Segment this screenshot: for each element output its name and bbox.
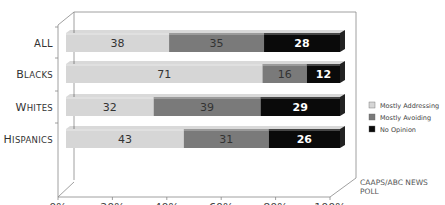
category-labels-group: ALLBLACKSWHITESHISPANICS [4, 27, 58, 146]
bar-top-face [66, 61, 345, 64]
bar-highlight [154, 97, 261, 99]
bars-group: 383528711612323929433126 [66, 30, 345, 148]
bar-value-label: 12 [316, 68, 331, 81]
source-note: CAAPS/ABC NEWS POLL [360, 178, 428, 196]
bar-highlight [66, 33, 169, 35]
bar-value-label: 26 [297, 133, 313, 146]
bar-end-cap [340, 94, 345, 116]
x-tick-label: 100% [314, 201, 345, 205]
legend-swatch [369, 126, 375, 132]
bar-end-cap [340, 30, 345, 52]
bar-value-label: 71 [157, 68, 171, 81]
bar-highlight [66, 64, 263, 66]
bar-top-face [66, 94, 345, 97]
legend: Mostly AddressingMostly AvoidingNo Opini… [369, 102, 439, 134]
category-label: WHITES [15, 101, 53, 114]
legend-label: No Opinion [380, 126, 416, 134]
bar-value-label: 28 [294, 37, 309, 50]
bar-row-blacks: 711612 [66, 61, 345, 83]
bar-row-hispanics: 433126 [66, 126, 345, 148]
bar-value-label: 29 [293, 101, 308, 114]
bar-highlight [184, 129, 269, 131]
bar-top-face [66, 30, 345, 33]
bar-highlight [169, 33, 264, 35]
bar-top-face [66, 126, 345, 129]
bar-value-label: 35 [210, 37, 224, 50]
legend-swatch [369, 102, 375, 108]
bar-end-cap [340, 126, 345, 148]
legend-label: Mostly Avoiding [380, 114, 431, 122]
bar-highlight [263, 64, 307, 66]
bar-value-label: 43 [118, 133, 132, 146]
x-tick-label: 20% [100, 201, 124, 205]
category-label: BLACKS [16, 68, 53, 81]
legend-label: Mostly Addressing [380, 102, 439, 110]
bar-value-label: 38 [111, 37, 125, 50]
x-tick-label: 60% [209, 201, 233, 205]
x-tick-label: 80% [263, 201, 287, 205]
stacked-bar-chart: 383528711612323929433126 0%20%40%60%80%1… [0, 0, 445, 205]
depth-line-right [330, 178, 356, 197]
bar-highlight [66, 129, 184, 131]
bar-value-label: 31 [219, 133, 233, 146]
bar-value-label: 39 [200, 101, 214, 114]
bar-end-cap [340, 61, 345, 83]
legend-swatch [369, 114, 375, 120]
bar-highlight [264, 33, 340, 35]
depth-line-top [58, 12, 74, 25]
depth-line-origin [58, 182, 74, 197]
source-line-2: POLL [360, 187, 428, 196]
bar-highlight [269, 129, 340, 131]
source-line-1: CAAPS/ABC NEWS [360, 178, 428, 187]
bar-value-label: 16 [278, 68, 292, 81]
category-label: HISPANICS [4, 133, 53, 146]
bar-row-whites: 323929 [66, 94, 345, 116]
x-tick-label: 0% [49, 201, 66, 205]
bar-row-all: 383528 [66, 30, 345, 52]
x-tick-label: 40% [155, 201, 179, 205]
bar-value-label: 32 [103, 101, 117, 114]
x-ticks-group: 0%20%40%60%80%100% [49, 197, 345, 205]
category-label: ALL [34, 38, 53, 49]
bar-highlight [261, 97, 340, 99]
bar-highlight [66, 97, 154, 99]
bar-highlight [307, 64, 340, 66]
